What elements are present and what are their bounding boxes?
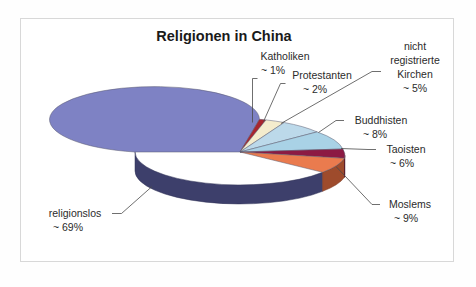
leader-buddhisten — [319, 121, 345, 133]
label-nr-line2: registrierte — [390, 54, 440, 66]
label-moslems-name: Moslems — [389, 198, 431, 210]
label-religionslos-name: religionslos — [49, 207, 102, 219]
slice-religionslos[interactable] — [50, 87, 260, 152]
label-katholiken-pct: ~ 1% — [261, 64, 285, 76]
pie-chart[interactable]: Religionen in China — [0, 0, 476, 287]
label-moslems-pct: ~ 9% — [394, 212, 418, 224]
label-nicht-registrierte-kirchen: nicht registrierte Kirchen ~ 5% — [390, 40, 440, 94]
label-nr-line1: nicht — [404, 40, 426, 52]
chart-title: Religionen in China — [156, 28, 292, 44]
label-protestanten: Protestanten ~ 2% — [292, 69, 352, 95]
label-nr-line3: Kirchen — [397, 68, 433, 80]
label-katholiken-name: Katholiken — [260, 50, 309, 62]
label-taoisten-pct: ~ 6% — [390, 157, 414, 169]
leader-religionslos — [112, 187, 152, 214]
leader-protestanten — [264, 84, 286, 122]
label-protestanten-pct: ~ 2% — [303, 83, 327, 95]
label-buddhisten-pct: ~ 8% — [363, 128, 387, 140]
label-buddhisten-name: Buddhisten — [355, 114, 408, 126]
label-religionslos-pct: ~ 69% — [53, 221, 83, 233]
label-moslems: Moslems ~ 9% — [389, 198, 431, 224]
label-protestanten-name: Protestanten — [292, 69, 352, 81]
screenshot-root: Religionen in China — [0, 0, 476, 287]
label-buddhisten: Buddhisten ~ 8% — [355, 114, 408, 140]
pie-top-face[interactable] — [50, 87, 345, 173]
label-religionslos: religionslos ~ 69% — [49, 207, 102, 233]
leader-taoisten — [341, 149, 376, 150]
label-nr-pct: ~ 5% — [403, 82, 427, 94]
label-taoisten-name: Taoisten — [386, 143, 425, 155]
label-taoisten: Taoisten ~ 6% — [386, 143, 425, 169]
